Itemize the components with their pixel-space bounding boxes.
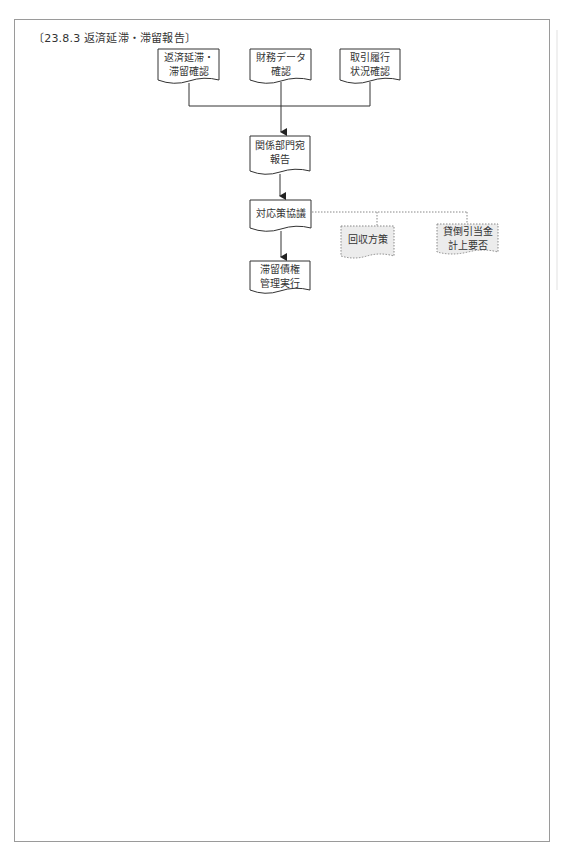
- node-label-n7: 回収方策: [341, 233, 394, 247]
- connector-merge: [189, 82, 370, 132]
- node-label-n1: 返済延滞・ 滞留確認: [158, 51, 219, 79]
- node-label-n8: 貸倒引当金 計上要否: [437, 225, 498, 253]
- node-label-n2: 財務データ 確認: [250, 51, 311, 79]
- flowchart-diagram: [0, 0, 566, 848]
- node-label-n3: 取引履行 状況確認: [340, 51, 400, 79]
- node-label-n4: 関係部門宛 報告: [250, 139, 310, 167]
- node-label-n6: 滞留債権 管理実行: [250, 263, 310, 291]
- node-label-n5: 対応策協議: [250, 207, 311, 221]
